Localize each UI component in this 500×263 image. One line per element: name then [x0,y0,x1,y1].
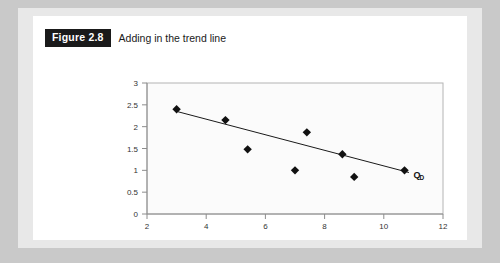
x-tick-label: 12 [439,222,448,231]
figure-card: Figure 2.8 Adding in the trend line [33,16,467,240]
y-tick-label: 3 [134,79,139,88]
y-tick-label: 2.5 [127,101,139,110]
x-axis-tick-labels: 2 4 6 8 10 12 [145,222,448,231]
y-tick-label: 2 [134,123,139,132]
qd-label-sub: D [420,174,425,181]
x-tick-label: 10 [379,222,388,231]
y-tick-label: 0.5 [127,188,139,197]
x-tick-label: 2 [145,222,150,231]
y-tick-label: 1 [134,166,139,175]
scatter-chart-svg: 0 0.5 1 1.5 2 2.5 3 [45,54,455,232]
x-tick-label: 8 [322,222,327,231]
figure-caption-row: Figure 2.8 Adding in the trend line [45,29,226,47]
y-axis-ticks [142,83,147,214]
chart-plot-area: 0 0.5 1 1.5 2 2.5 3 [45,54,455,232]
x-tick-label: 6 [263,222,268,231]
plot-frame [147,83,443,214]
x-tick-label: 4 [204,222,209,231]
y-tick-label: 1.5 [127,145,139,154]
figure-outer-frame: Figure 2.8 Adding in the trend line [18,8,482,248]
y-axis-tick-labels: 0 0.5 1 1.5 2 2.5 3 [127,79,139,219]
x-axis-ticks [147,214,443,219]
figure-caption-text: Adding in the trend line [119,33,226,44]
y-tick-label: 0 [134,210,139,219]
figure-number-badge: Figure 2.8 [45,29,111,47]
